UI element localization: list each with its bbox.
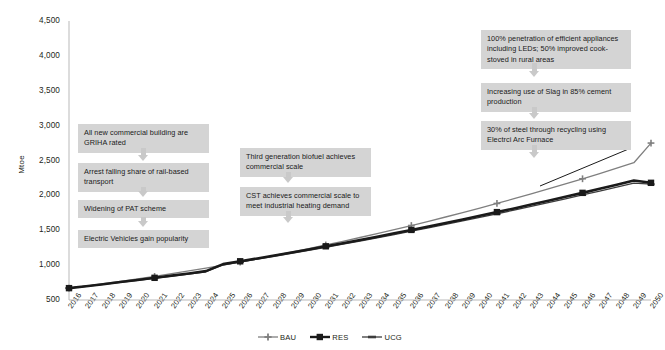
chart-legend: BAURESUCG	[0, 332, 660, 342]
annotation-arrow-head	[138, 155, 148, 161]
annotation-connector-line	[540, 148, 631, 186]
annotation-arrow-head	[529, 113, 539, 119]
legend-label: RES	[332, 333, 348, 342]
annotation-arrow-head	[283, 177, 293, 183]
legend-marker-ucg-icon	[362, 332, 382, 342]
legend-label: UCG	[384, 333, 401, 342]
ann-cst: CST achieves commercial scale to meet in…	[240, 187, 371, 216]
ann-biofuel: Third generation biofuel achieves commer…	[240, 148, 371, 177]
annotation-arrow-head	[138, 191, 148, 197]
legend-item-res[interactable]: RES	[310, 332, 348, 342]
annotation-arrow-head	[283, 217, 293, 223]
legend-item-bau[interactable]: BAU	[258, 332, 296, 342]
legend-label: BAU	[280, 333, 296, 342]
annotation-arrow-head	[138, 221, 148, 227]
annotation-arrow-head	[529, 152, 539, 158]
ann-electric-vehicles: Electric Vehicles gain popularity	[78, 230, 209, 248]
annotation-arrow-stem	[532, 63, 537, 71]
annotation-arrow-stem	[141, 148, 146, 155]
ann-pat-scheme: Widening of PAT scheme	[78, 200, 209, 218]
annotation-arrow-stem	[532, 145, 537, 152]
annotation-arrow-head	[529, 71, 539, 77]
ann-slag-cement: Increasing use of Slag in 85% cement pro…	[481, 83, 631, 112]
ann-appliances: 100% penetration of efficient appliances…	[481, 30, 631, 69]
legend-marker-res-icon	[310, 332, 330, 342]
legend-marker-bau-icon	[258, 332, 278, 342]
ann-steel-recycling: 30% of steel through recycling using Ele…	[481, 121, 631, 150]
legend-item-ucg[interactable]: UCG	[362, 332, 401, 342]
